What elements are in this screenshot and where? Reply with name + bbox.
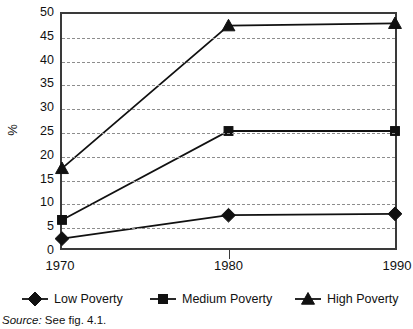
y-tick-label: 10 <box>20 196 54 208</box>
gridline <box>62 85 395 86</box>
gridline <box>62 62 395 63</box>
data-point-marker-square <box>224 127 233 136</box>
x-tick-label: 1970 <box>30 258 90 274</box>
y-tick-label: 35 <box>20 77 54 89</box>
data-point-marker-square <box>58 215 67 224</box>
y-tick-label: 5 <box>20 220 54 232</box>
y-tick-label: 50 <box>20 6 54 18</box>
y-tick-label: 20 <box>20 149 54 161</box>
legend-item-low-poverty[interactable]: Low Poverty <box>22 288 123 310</box>
gridline <box>62 181 395 182</box>
legend-marker-diamond-icon <box>22 291 48 307</box>
y-tick-label: 30 <box>20 101 54 113</box>
gridline <box>62 157 395 158</box>
series-line <box>62 131 395 220</box>
source-text: See fig. 4.1. <box>45 314 106 326</box>
data-point-marker-diamond <box>55 232 69 246</box>
data-point-marker-diamond <box>388 207 402 221</box>
legend-label: Low Poverty <box>54 292 123 306</box>
y-tick-label: 45 <box>20 30 54 42</box>
gridline <box>62 133 395 134</box>
x-tick-label: 1990 <box>367 258 413 274</box>
series-line <box>62 23 395 168</box>
gridline <box>62 228 395 229</box>
series-lines-layer <box>62 14 395 248</box>
series-low-poverty <box>55 207 402 246</box>
source-note: Source: See fig. 4.1. <box>2 313 106 327</box>
x-tick-mark <box>229 250 230 259</box>
source-label: Source: <box>2 314 42 326</box>
y-tick-label: 40 <box>20 54 54 66</box>
y-tick-label: 15 <box>20 173 54 185</box>
gridline <box>62 204 395 205</box>
y-tick-label: 0 <box>20 244 54 256</box>
legend-marker-square-icon <box>150 291 176 307</box>
legend-item-medium-poverty[interactable]: Medium Poverty <box>150 288 272 310</box>
legend-marker-triangle-icon <box>295 291 321 307</box>
series-high-poverty <box>56 17 402 174</box>
x-tick-label: 1980 <box>199 258 259 274</box>
legend-label: High Poverty <box>327 292 399 306</box>
legend-label: Medium Poverty <box>182 292 272 306</box>
gridline <box>62 109 395 110</box>
legend-item-high-poverty[interactable]: High Poverty <box>295 288 399 310</box>
data-point-marker-square <box>391 127 400 136</box>
chart-legend: Low PovertyMedium PovertyHigh Poverty <box>0 288 413 310</box>
gridline <box>62 38 395 39</box>
data-point-marker-diamond <box>222 208 236 222</box>
y-axis-tick-labels: 50454035302520151050 <box>20 0 54 329</box>
plot-area <box>60 12 397 250</box>
poverty-line-chart: % 50454035302520151050 197019801990 Low … <box>0 0 413 329</box>
y-tick-label: 25 <box>20 125 54 137</box>
